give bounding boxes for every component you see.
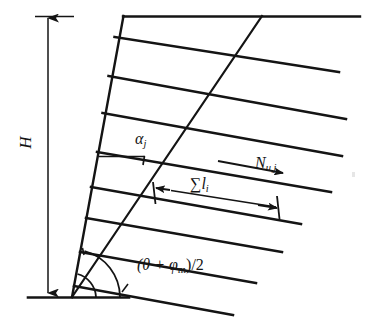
- angle-arc-tick: [83, 248, 85, 255]
- failure-angle-label: (θ + φm)/2: [137, 257, 204, 276]
- sigma-symbol: ∑: [190, 175, 201, 192]
- reinforcement-layer-6: [86, 218, 282, 252]
- force-symbol: N: [255, 154, 266, 171]
- sum-l-left-tick: [153, 182, 156, 204]
- tensile-force-label: Nu,j: [255, 155, 277, 174]
- length-subscript: i: [206, 183, 209, 194]
- alpha-subscript: j: [143, 138, 146, 149]
- angle-leader-line: [122, 284, 128, 292]
- height-dimension-group: [35, 17, 74, 294]
- force-subscript: u,j: [266, 162, 277, 173]
- height-label: H: [17, 136, 34, 148]
- sum-l-right-tick: [277, 196, 280, 219]
- scan-artifact: [352, 172, 355, 177]
- sum-l-left-arrow: [156, 188, 170, 190]
- reinforcement-layer-4: [97, 152, 331, 192]
- alpha-reference-tick: [143, 156, 145, 165]
- theta-expression: (θ + φ: [137, 256, 178, 273]
- reinforcement-angle-label: αj: [135, 131, 146, 150]
- anchorage-length-label: ∑li: [190, 176, 209, 195]
- reinforcement-layer-2: [109, 76, 347, 119]
- slope-diagram-figure: H αj Nu,j ∑li (θ + φm)/2: [0, 0, 376, 332]
- theta-expression-tail: )/2: [186, 256, 204, 273]
- phi-subscript: m: [178, 264, 186, 275]
- height-label-text: H: [16, 136, 35, 148]
- diagram-canvas: [0, 0, 376, 332]
- reinforcement-layer-8: [74, 286, 233, 315]
- reinforcement-layers-group: [74, 37, 346, 315]
